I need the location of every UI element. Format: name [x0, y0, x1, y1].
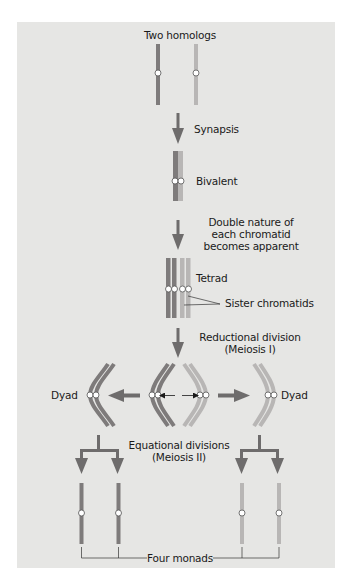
label-two-homologs: Two homologs	[140, 29, 220, 42]
right-equational-fork-arrow-icon	[235, 435, 284, 474]
label-sister-chromatids: Sister chromatids	[225, 297, 314, 310]
bivalent	[172, 151, 184, 201]
meiosis-diagram	[0, 0, 352, 577]
left-equational-fork-arrow-icon	[75, 435, 124, 474]
left-separation-arrow-icon	[108, 389, 140, 402]
label-double-nature-1: Double nature of	[190, 216, 312, 229]
label-equational-1: Equational divisions	[122, 439, 236, 452]
label-four-monads: Four monads	[147, 552, 213, 565]
monad-1	[79, 483, 85, 544]
label-equational-2: (Meiosis II)	[122, 451, 236, 464]
label-bivalent: Bivalent	[196, 175, 237, 188]
label-double-nature-3: becomes apparent	[190, 240, 312, 253]
synapsis-arrow-icon	[172, 113, 184, 144]
reductional-arrow-icon	[172, 328, 184, 358]
label-double-nature-2: each chromatid	[190, 228, 312, 241]
tetrad	[166, 258, 192, 318]
dyad-middle-light	[184, 364, 209, 426]
label-reductional-1: Reductional division	[188, 331, 312, 344]
dyad-middle-dark	[149, 364, 174, 426]
monad-3	[239, 483, 245, 544]
dyad-right	[254, 364, 277, 426]
monad-4	[276, 483, 282, 544]
label-tetrad: Tetrad	[196, 272, 227, 285]
homolog-dark	[155, 44, 161, 105]
label-synapsis: Synapsis	[194, 123, 239, 136]
label-dyad-left: Dyad	[51, 389, 78, 402]
monad-2	[116, 483, 122, 544]
right-separation-arrow-icon	[218, 389, 250, 402]
label-reductional-2: (Meiosis I)	[188, 343, 312, 356]
homolog-light	[193, 44, 199, 105]
double-nature-arrow-icon	[172, 220, 184, 250]
label-dyad-right: Dyad	[281, 389, 308, 402]
